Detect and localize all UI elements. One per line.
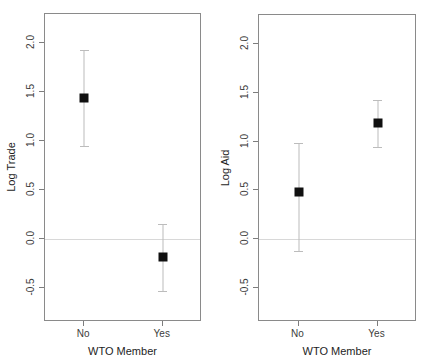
y-axis-tick-label: 2.0 [239, 36, 250, 50]
error-bar-cap-bottom [80, 146, 89, 147]
plot-frame-right [258, 14, 416, 321]
y-axis-tick-label: 0.5 [239, 182, 250, 196]
x-axis-title-left: WTO Member [88, 345, 157, 357]
y-axis-tick [253, 141, 258, 142]
x-axis-tick-label-no: No [291, 328, 304, 339]
error-bar-cap-top [80, 50, 89, 51]
zero-reference-line [45, 239, 200, 240]
panel-log-aid: -0.50.00.51.01.52.0NoYes Log Aid WTO Mem… [215, 0, 431, 364]
y-axis-tick [39, 238, 44, 239]
error-bar-cap-top [294, 143, 303, 144]
x-axis-tick-label-yes: Yes [368, 328, 384, 339]
error-bar-cap-top [373, 100, 382, 101]
point-estimate-marker [80, 94, 89, 103]
x-axis-tick [162, 321, 163, 326]
point-estimate-marker [158, 253, 167, 262]
y-axis-tick-label: 1.5 [25, 84, 36, 98]
y-axis-tick [253, 238, 258, 239]
y-axis-tick [39, 287, 44, 288]
error-bar [298, 143, 299, 252]
x-axis-tick [83, 321, 84, 326]
y-axis-tick-label: 2.0 [25, 35, 36, 49]
error-bar-cap-bottom [373, 147, 382, 148]
y-axis-tick [39, 140, 44, 141]
y-axis-tick-label: 0.0 [25, 231, 36, 245]
y-axis-tick-label: -0.5 [25, 278, 36, 295]
error-bar-cap-bottom [158, 291, 167, 292]
x-axis-tick-label-no: No [77, 328, 90, 339]
plot-area-right [259, 15, 415, 320]
zero-reference-line [259, 239, 415, 240]
panel-log-trade: -0.50.00.51.01.52.0NoYes Log Trade WTO M… [0, 0, 215, 364]
y-axis-tick-label: -0.5 [239, 278, 250, 295]
error-bar-cap-bottom [294, 251, 303, 252]
point-estimate-marker [373, 119, 382, 128]
x-axis-tick-label-yes: Yes [154, 328, 170, 339]
x-axis-title-right: WTO Member [303, 345, 372, 357]
plot-frame-left [44, 13, 201, 321]
figure-canvas: -0.50.00.51.01.52.0NoYes Log Trade WTO M… [0, 0, 431, 364]
y-axis-tick [253, 287, 258, 288]
y-axis-tick [39, 189, 44, 190]
x-axis-tick [377, 321, 378, 326]
plot-area-left [45, 14, 200, 320]
y-axis-title-right: Log Aid [219, 149, 231, 186]
x-axis-tick [298, 321, 299, 326]
point-estimate-marker [294, 188, 303, 197]
y-axis-tick [39, 91, 44, 92]
y-axis-tick [253, 92, 258, 93]
error-bar-cap-top [158, 224, 167, 225]
y-axis-tick [253, 189, 258, 190]
y-axis-title-left: Log Trade [5, 142, 17, 192]
y-axis-tick-label: 1.5 [239, 85, 250, 99]
y-axis-tick [39, 42, 44, 43]
y-axis-tick [253, 43, 258, 44]
y-axis-tick-label: 1.0 [239, 134, 250, 148]
y-axis-tick-label: 0.0 [239, 231, 250, 245]
y-axis-tick-label: 1.0 [25, 133, 36, 147]
y-axis-tick-label: 0.5 [25, 182, 36, 196]
